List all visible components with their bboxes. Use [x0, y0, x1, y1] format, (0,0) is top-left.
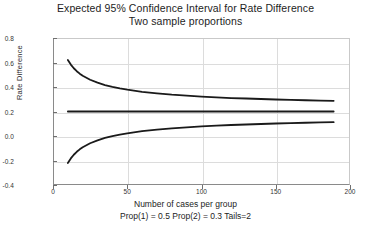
x-tick-mark: [127, 185, 128, 189]
x-tick-label: 200: [330, 188, 370, 195]
x-tick-mark: [350, 185, 351, 189]
y-tick-label: 0.4: [0, 84, 14, 91]
y-tick-label: 0.0: [0, 133, 14, 140]
plot-area: [53, 38, 350, 185]
gridline-horizontal: [54, 64, 349, 65]
gridline-horizontal: [54, 88, 349, 89]
y-tick-mark: [53, 38, 57, 39]
chart-caption: Prop(1) = 0.5 Prop(2) = 0.3 Tails=2: [0, 211, 371, 223]
x-tick-label: 0: [33, 188, 73, 195]
x-tick-mark: [53, 185, 54, 189]
y-axis-label: Rate Difference: [15, 13, 24, 133]
chart-title: Expected 95% Confidence Interval for Rat…: [0, 2, 371, 28]
y-tick-label: -0.4: [0, 182, 14, 189]
chart-title-line1: Expected 95% Confidence Interval for Rat…: [57, 2, 314, 14]
x-tick-label: 150: [256, 188, 296, 195]
x-tick-mark: [202, 185, 203, 189]
y-tick-mark: [53, 136, 57, 137]
y-tick-mark: [53, 63, 57, 64]
gridline-vertical: [277, 39, 278, 184]
x-tick-label: 100: [182, 188, 222, 195]
y-tick-label: 0.6: [0, 59, 14, 66]
gridline-horizontal: [54, 137, 349, 138]
gridline-horizontal: [54, 162, 349, 163]
y-tick-label: 0.8: [0, 35, 14, 42]
chart-canvas: Expected 95% Confidence Interval for Rat…: [0, 0, 371, 234]
x-axis-label: Number of cases per group Prop(1) = 0.5 …: [0, 199, 371, 222]
x-tick-label: 50: [107, 188, 147, 195]
y-tick-label: -0.2: [0, 157, 14, 164]
gridline-vertical: [203, 39, 204, 184]
y-tick-mark: [53, 87, 57, 88]
y-tick-label: 0.2: [0, 108, 14, 115]
chart-subtitle: Two sample proportions: [0, 15, 371, 28]
gridline-horizontal: [54, 113, 349, 114]
y-tick-mark: [53, 112, 57, 113]
y-tick-mark: [53, 161, 57, 162]
x-tick-mark: [276, 185, 277, 189]
gridline-vertical: [128, 39, 129, 184]
x-axis-label-text: Number of cases per group: [134, 199, 237, 209]
